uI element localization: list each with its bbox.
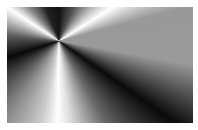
conic-gradient-image <box>7 7 193 123</box>
